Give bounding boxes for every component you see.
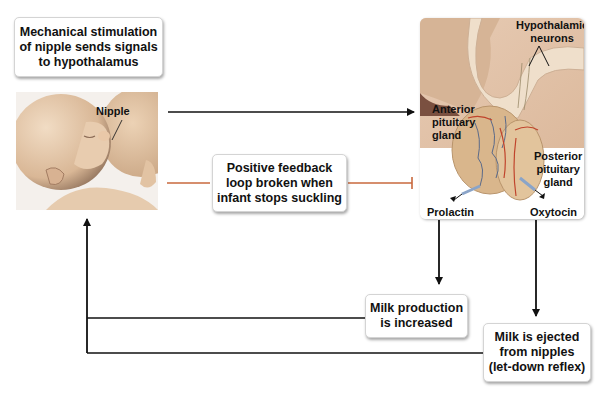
nipple-label: Nipple bbox=[96, 105, 130, 118]
prolactin-label: Prolactin bbox=[427, 206, 474, 219]
milk-ejected-box: Milk is ejected from nipples (let-down r… bbox=[483, 323, 591, 382]
stimulation-box: Mechanical stimulation of nipple sends s… bbox=[14, 17, 163, 77]
stimulation-text-line: Mechanical stimulation bbox=[19, 25, 157, 40]
oxytocin-label: Oxytocin bbox=[530, 206, 577, 219]
feedback-text-line: loop broken when bbox=[217, 176, 342, 191]
milk-production-text-line: Milk production bbox=[370, 301, 463, 316]
posterior-pituitary-label: Posterior pituitary gland bbox=[534, 150, 582, 189]
milk-ejected-text-line: Milk is ejected bbox=[489, 330, 586, 345]
milk-ejected-text-line: from nipples bbox=[489, 345, 586, 360]
stimulation-text-line: of nipple sends signals bbox=[19, 40, 157, 55]
milk-production-text-line: is increased bbox=[370, 316, 463, 331]
stimulation-text-line: to hypothalamus bbox=[19, 55, 157, 70]
milk-ejected-text-line: (let-down reflex) bbox=[489, 360, 586, 375]
baby-nursing-image: Nipple bbox=[16, 92, 158, 210]
baby-illustration bbox=[16, 92, 158, 210]
pituitary-image: Hypothalamic neurons Anterior pituitary … bbox=[420, 18, 584, 219]
milk-production-box: Milk production is increased bbox=[365, 294, 468, 338]
anterior-pituitary-label: Anterior pituitary gland bbox=[432, 103, 475, 142]
hypothalamic-neurons-label: Hypothalamic neurons bbox=[516, 19, 584, 45]
feedback-text-line: Positive feedback bbox=[217, 161, 342, 176]
feedback-loop-box: Positive feedback loop broken when infan… bbox=[212, 154, 347, 212]
feedback-text-line: infant stops suckling bbox=[217, 191, 342, 206]
